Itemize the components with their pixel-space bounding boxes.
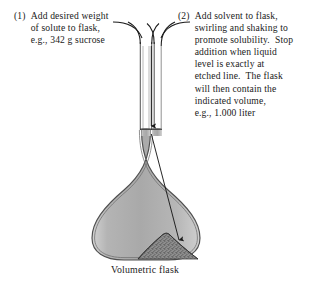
instruction-2-number: (2): [178, 10, 195, 22]
instruction-2-line-6: etched line. The flask: [195, 70, 318, 82]
instruction-1-line-2: of solute to flask,: [31, 22, 132, 34]
instruction-2-text: Add solvent to flask, swirling and shaki…: [195, 10, 318, 119]
flask-bulb: [92, 130, 200, 260]
instruction-2-line-2: swirling and shaking to: [195, 22, 318, 34]
flask-lip-left-inner: [147, 24, 154, 45]
instruction-2-line-4: addition when liquid: [195, 46, 318, 58]
instruction-2-line-8: indicated volume,: [195, 95, 318, 107]
instruction-step-2: (2) Add solvent to flask, swirling and s…: [178, 10, 318, 119]
instruction-2-line-7: will then contain the: [195, 83, 318, 95]
figure-caption: Volumetric flask: [0, 264, 290, 275]
instruction-2-line-9: e.g., 1.000 liter: [195, 107, 318, 119]
instruction-1-number: (1): [14, 10, 31, 22]
instruction-1-line-1: Add desired weight: [31, 10, 132, 22]
instruction-1-text: Add desired weight of solute to flask, e…: [31, 10, 132, 46]
instruction-2-line-3: promote solubility. Stop: [195, 34, 318, 46]
instruction-2-line-5: level is exactly at: [195, 58, 318, 70]
instruction-step-1: (1) Add desired weight of solute to flas…: [14, 10, 132, 46]
instruction-2-line-1: Add solvent to flask,: [195, 10, 318, 22]
instruction-1-line-3: e.g., 342 g sucrose: [31, 34, 132, 46]
figure-root: (1) Add desired weight of solute to flas…: [0, 0, 324, 293]
